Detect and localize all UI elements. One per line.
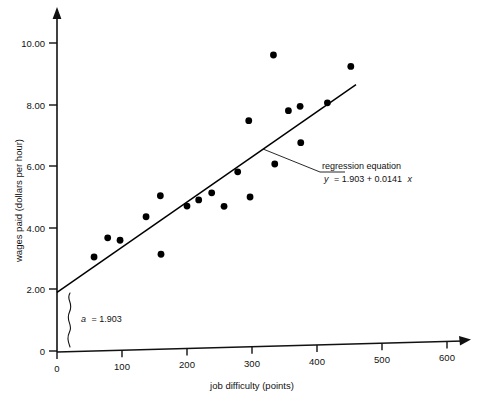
data-point [157, 192, 164, 199]
data-point [195, 197, 202, 204]
x-tick-label-500: 500 [374, 354, 390, 365]
data-point [91, 254, 98, 261]
data-point [285, 107, 292, 114]
intercept-annotation: a = 1.903 [68, 293, 122, 347]
y-axis-arrowhead-icon [53, 7, 62, 19]
scatter-plot-canvas: 10.00 8.00 6.00 4.00 2.00 0 wages paid (… [0, 0, 487, 399]
regression-annotation-equation: y = 1.903 + 0.0141 x [323, 174, 413, 184]
data-point [104, 234, 111, 241]
y-tick-label-0: 0 [40, 346, 45, 357]
y-tick-label-2: 2.00 [27, 284, 46, 295]
y-axis-title: wages paid (dollars per hour) [13, 139, 24, 263]
intercept-annotation-label: a = 1.903 [81, 314, 122, 324]
data-point-group [91, 52, 355, 261]
equation-lhs-variable: y [323, 174, 329, 184]
curly-brace-icon [68, 293, 71, 347]
y-tick-label-4: 4.00 [27, 223, 46, 234]
regression-annotation-label: regression equation [322, 161, 401, 171]
equation-body: = 1.903 + 0.0141 [334, 174, 402, 184]
data-point [324, 99, 331, 106]
y-tick-label-6: 6.00 [27, 161, 46, 172]
data-point [297, 103, 304, 110]
y-tick-label-8: 8.00 [27, 100, 46, 111]
intercept-value: = 1.903 [92, 314, 122, 324]
data-point [271, 161, 278, 168]
y-tick-label-10: 10.00 [21, 38, 45, 49]
x-tick-label-200: 200 [179, 359, 195, 370]
data-point [221, 203, 228, 210]
regression-annotation: regression equation y = 1.903 + 0.0141 x [263, 149, 413, 184]
x-tick-label-0: 0 [54, 363, 59, 374]
data-point [245, 117, 252, 124]
data-point [234, 168, 241, 175]
data-point [117, 237, 124, 244]
intercept-variable: a [81, 314, 86, 324]
data-point [184, 203, 191, 210]
data-point [297, 139, 304, 146]
x-axis-arrowhead-icon [459, 336, 471, 346]
data-point [347, 63, 354, 70]
data-point [208, 189, 215, 196]
regression-line [57, 85, 356, 293]
y-axis: 10.00 8.00 6.00 4.00 2.00 0 wages paid (… [13, 7, 61, 357]
x-axis-title: job difficulty (points) [209, 380, 294, 391]
x-axis-line [57, 341, 463, 352]
data-point [270, 52, 277, 59]
equation-x-variable: x [407, 174, 413, 184]
chart-figure: 10.00 8.00 6.00 4.00 2.00 0 wages paid (… [0, 0, 487, 399]
x-tick-label-400: 400 [309, 356, 325, 367]
x-tick-label-600: 600 [439, 352, 455, 363]
x-tick-label-300: 300 [244, 358, 260, 369]
x-axis: 0 100 200 300 400 500 600 job difficulty… [54, 336, 471, 391]
data-point [158, 251, 165, 258]
data-point [143, 213, 150, 220]
x-tick-label-100: 100 [114, 361, 130, 372]
data-point [247, 194, 254, 201]
